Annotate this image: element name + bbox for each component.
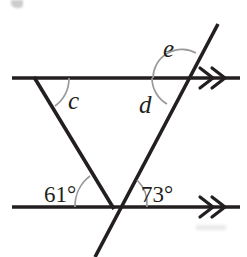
angle-label-c: c bbox=[68, 88, 79, 113]
angle-arc-d bbox=[152, 78, 167, 104]
angle-label-d: d bbox=[139, 92, 152, 117]
angle-label-73-degrees: 73° bbox=[141, 183, 173, 206]
angle-label-61-degrees: 61° bbox=[44, 183, 76, 206]
angle-arc-61 bbox=[75, 176, 90, 207]
angle-arc-e bbox=[153, 49, 196, 78]
angle-label-e: e bbox=[163, 36, 174, 61]
geometry-figure: c d e 61° 73° bbox=[0, 0, 247, 257]
transversal-line bbox=[95, 24, 218, 257]
geometry-diagram-canvas bbox=[0, 0, 247, 257]
angle-arc-c bbox=[55, 78, 69, 106]
